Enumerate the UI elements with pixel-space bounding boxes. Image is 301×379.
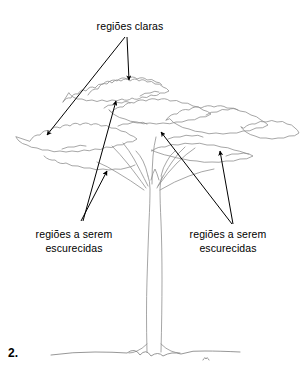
arrow-claras-down — [127, 37, 129, 80]
label-escurecidas-left-line1: regiões a serem — [8, 227, 140, 241]
arrow-claras-left — [47, 37, 125, 135]
arrow-escurecidas-r-up — [161, 132, 232, 224]
label-regioes-claras-text: regiões claras — [60, 19, 200, 33]
arrow-escurecidas-l-up — [83, 101, 116, 221]
arrow-escurecidas-r-mid — [220, 151, 233, 224]
label-escurecidas-right: regiões a serem escurecidas — [162, 227, 294, 255]
arrow-escurecidas-l-mid — [81, 171, 107, 221]
label-escurecidas-right-line2: escurecidas — [162, 241, 294, 255]
figure-number: 2. — [8, 346, 18, 360]
figure-tree-shading-diagram: regiões claras regiões a serem escurecid… — [0, 0, 301, 379]
label-escurecidas-left: regiões a serem escurecidas — [8, 227, 140, 255]
label-escurecidas-left-line2: escurecidas — [8, 241, 140, 255]
label-escurecidas-right-line1: regiões a serem — [162, 227, 294, 241]
annotation-arrows — [0, 0, 301, 379]
label-regioes-claras: regiões claras — [60, 19, 200, 33]
